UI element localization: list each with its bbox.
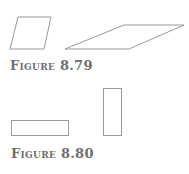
vertical-rectangle bbox=[104, 89, 122, 136]
small-parallelogram bbox=[10, 17, 51, 49]
wide-parallelogram bbox=[65, 25, 184, 49]
figure-caption: Figure 8.80 bbox=[11, 147, 94, 160]
figure-caption: Figure 8.79 bbox=[10, 59, 93, 72]
horizontal-rectangle bbox=[12, 121, 69, 136]
figure-8-80-drawing bbox=[12, 89, 122, 136]
figure-8-79-drawing bbox=[10, 17, 184, 49]
